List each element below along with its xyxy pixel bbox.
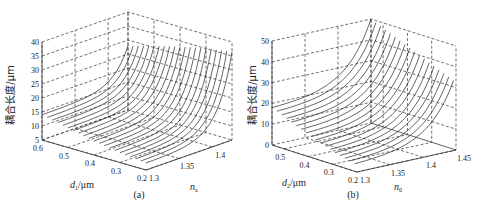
z-tick-label: 20 (261, 99, 269, 108)
series-curve-18 (136, 51, 222, 159)
x-axis-title: d1/μm (70, 179, 94, 191)
gridline-y (108, 19, 212, 147)
gridline-z (42, 110, 232, 140)
series-curve-5 (296, 37, 395, 126)
x-tick-label: 0.5 (59, 152, 69, 161)
gridline-y (338, 26, 423, 157)
z-tick-label: 30 (31, 66, 39, 75)
y-tick-label: 1.3 (149, 174, 159, 183)
y-tick-label: 1.35 (391, 169, 405, 178)
panel-a: 5101520253035400.60.50.40.30.21.31.351.4… (4, 12, 232, 201)
x-tick-label: 0.3 (111, 167, 121, 176)
series-curve-7 (78, 46, 164, 133)
y-axis (357, 150, 456, 172)
series-curve-11 (99, 47, 185, 143)
series-curve-6 (301, 41, 400, 130)
gridline-z (42, 12, 232, 42)
z-tick-label: 20 (31, 94, 39, 103)
figure: 5101520253035400.60.50.40.30.21.31.351.4… (0, 0, 488, 211)
series-curve-2 (52, 46, 138, 120)
gridline-x (94, 27, 180, 155)
y-axis-title: na (190, 181, 198, 193)
z-axis-title: 耦合长度/μm (4, 65, 16, 124)
z-tick-label: 10 (261, 120, 269, 129)
gridline-x (42, 12, 128, 140)
gridline-y (42, 42, 146, 170)
x-tick-label: 0.4 (85, 159, 95, 168)
z-tick-label: 10 (31, 122, 39, 131)
series-curve-20 (146, 52, 232, 163)
z-tick-label: 0 (265, 141, 269, 150)
z-tick-label: 30 (261, 79, 269, 88)
series-curve-17 (130, 50, 216, 157)
z-tick-label: 25 (31, 80, 39, 89)
x-axis-title: d2/μm (282, 177, 306, 189)
y-tick-label: 1.35 (180, 162, 194, 171)
y-tick-label: 1.4 (215, 151, 225, 160)
series-curve-1 (277, 23, 376, 112)
series-curve-3 (58, 46, 144, 123)
series-curve-2 (282, 26, 381, 115)
panel-b: 010203040500.50.40.30.21.31.351.41.45耦合长… (246, 19, 471, 201)
gridline-x (68, 20, 154, 148)
panel-caption: (b) (347, 189, 359, 201)
x-tick-label: 0.5 (275, 153, 285, 162)
z-tick-label: 40 (31, 38, 39, 47)
x-tick-label: 0.6 (33, 144, 43, 153)
gridline-z (42, 54, 232, 84)
y-tick-label: 1.3 (360, 176, 370, 185)
y-tick-label: 1.45 (457, 154, 471, 163)
y-axis-title: n0 (394, 181, 402, 193)
z-tick-label: 40 (261, 58, 269, 67)
x-tick-label: 0.4 (299, 161, 309, 170)
x-tick-label: 0.2 (137, 174, 147, 183)
z-tick-label: 15 (31, 108, 39, 117)
y-tick-label: 1.4 (426, 161, 436, 170)
gridline-z (272, 19, 456, 46)
panel-caption: (a) (133, 189, 144, 201)
x-tick-label: 0.2 (348, 176, 358, 185)
z-tick-label: 35 (31, 52, 39, 61)
series-curve-17 (355, 81, 454, 164)
series-curve-0 (272, 19, 371, 108)
x-tick-label: 0.3 (324, 168, 334, 177)
series-curve-0 (42, 46, 128, 115)
series-curve-16 (125, 49, 211, 155)
z-tick-label: 50 (261, 37, 269, 46)
z-axis-title: 耦合长度/μm (246, 65, 258, 124)
series-curve-8 (84, 46, 170, 135)
